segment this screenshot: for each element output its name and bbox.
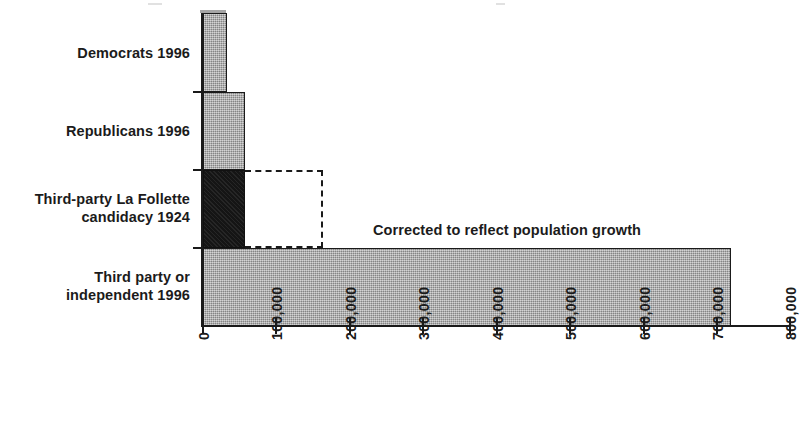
bar-democrats-1996 (203, 13, 227, 92)
x-axis-tick-label-100000: 100,000 (269, 287, 285, 340)
category-label-third-party-1996: Third party or independent 1996 (10, 268, 190, 304)
y-axis-tick (193, 247, 203, 249)
y-axis-tick (193, 91, 203, 93)
x-axis-tick-label-500000: 500,000 (563, 287, 579, 340)
x-axis-tick-label-700000: 700,000 (710, 287, 726, 340)
chart-figure: Democrats 1996 Republicans 1996 Third-pa… (0, 0, 808, 428)
y-axis-tick (193, 169, 203, 171)
category-label-democrats-1996: Democrats 1996 (10, 44, 190, 62)
x-axis-tick-label-200000: 200,000 (343, 287, 359, 340)
x-axis-tick-label-600000: 600,000 (637, 287, 653, 340)
bar-la-follette-1924 (203, 170, 245, 248)
annotation-population-growth: Corrected to reflect population growth (373, 222, 641, 238)
x-axis-tick-label-0: 0 (196, 332, 212, 340)
x-axis-tick-label-800000: 800,000 (783, 287, 799, 340)
scan-artifact (496, 3, 505, 5)
category-label-la-follette-1924: Third-party La Follette candidacy 1924 (10, 190, 190, 226)
scan-artifact (148, 3, 162, 5)
category-label-republicans-1996: Republicans 1996 (10, 122, 190, 140)
x-axis-tick-label-400000: 400,000 (490, 287, 506, 340)
bar-la-follette-1924-corrected-extension (245, 170, 323, 248)
bar-republicans-1996 (203, 92, 245, 170)
x-axis-tick-label-300000: 300,000 (416, 287, 432, 340)
